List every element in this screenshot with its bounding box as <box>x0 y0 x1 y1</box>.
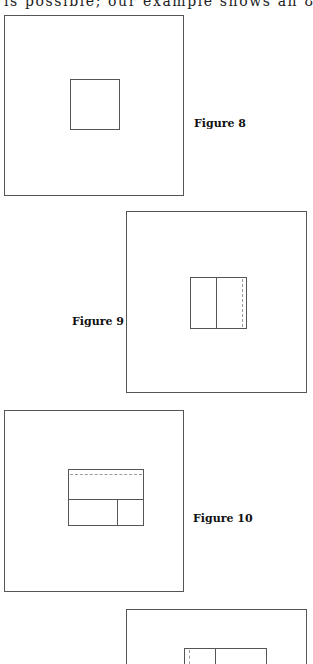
figure-10-block <box>68 469 144 526</box>
figure-10-fold-line <box>70 474 142 475</box>
figure-9-fold-line <box>242 279 243 327</box>
figure-10-horizontal-seam <box>68 499 144 500</box>
figure-8-caption: Figure 8 <box>194 117 246 130</box>
figure-9-caption: Figure 9 <box>72 315 124 328</box>
figure-11-vertical-seam <box>215 648 216 664</box>
figure-11-fold-line <box>189 650 190 664</box>
figure-8-center-square <box>70 79 120 130</box>
figure-10-caption: Figure 10 <box>193 512 253 525</box>
figure-11-block <box>184 648 267 664</box>
body-text-fragment: is possible; our example shows an 8" fin… <box>4 0 313 9</box>
figure-10-vertical-seam <box>117 499 118 525</box>
figure-9-left-strip <box>190 277 217 329</box>
